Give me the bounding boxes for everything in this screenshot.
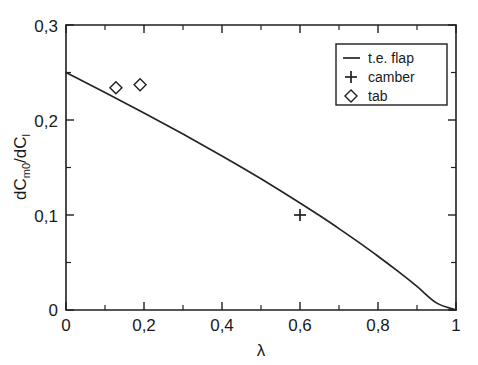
y-tick-label-3: 0,3 bbox=[34, 17, 58, 36]
x-axis-top-ticks bbox=[66, 25, 456, 33]
y-axis-title-lead: dC bbox=[11, 178, 30, 200]
data-point-diamond bbox=[110, 82, 122, 94]
y-axis-title-mid: /dC bbox=[11, 136, 30, 162]
legend-label-2: tab bbox=[368, 88, 388, 104]
x-tick-label-4: 0,8 bbox=[366, 316, 390, 335]
x-axis-title: λ bbox=[257, 341, 266, 360]
y-tick-label-0: 0 bbox=[49, 301, 58, 320]
y-axis-right-ticks bbox=[448, 25, 456, 310]
y-axis-tick-labels: 0 0,1 0,2 0,3 bbox=[34, 17, 58, 320]
y-axis-title-sub1: m0 bbox=[20, 163, 32, 178]
chart-canvas: 0 0,1 0,2 0,3 0 0,2 0,4 0,6 0,8 1 λ dCm0… bbox=[0, 0, 478, 365]
series-markers-tab bbox=[110, 79, 146, 94]
legend-label-1: camber bbox=[368, 69, 415, 85]
series-markers-camber bbox=[294, 209, 306, 221]
data-point-plus bbox=[294, 209, 306, 221]
data-point-diamond bbox=[134, 79, 146, 91]
x-tick-label-3: 0,6 bbox=[288, 316, 312, 335]
legend: t.e. flap camber tab bbox=[336, 44, 447, 105]
series-line-te-flap bbox=[66, 73, 456, 311]
x-tick-label-2: 0,4 bbox=[210, 316, 234, 335]
y-axis-title: dCm0/dCl bbox=[11, 134, 32, 200]
y-tick-label-2: 0,2 bbox=[34, 112, 58, 131]
y-axis-title-sub2: l bbox=[20, 134, 32, 136]
chart-figure: 0 0,1 0,2 0,3 0 0,2 0,4 0,6 0,8 1 λ dCm0… bbox=[0, 0, 478, 365]
x-tick-label-5: 1 bbox=[451, 316, 460, 335]
svg-text:dCm0/dCl: dCm0/dCl bbox=[11, 134, 32, 200]
x-tick-label-1: 0,2 bbox=[132, 316, 156, 335]
x-tick-label-0: 0 bbox=[61, 316, 70, 335]
x-axis-tick-labels: 0 0,2 0,4 0,6 0,8 1 bbox=[61, 316, 460, 335]
legend-label-0: t.e. flap bbox=[368, 50, 414, 66]
y-tick-label-1: 0,1 bbox=[34, 207, 58, 226]
